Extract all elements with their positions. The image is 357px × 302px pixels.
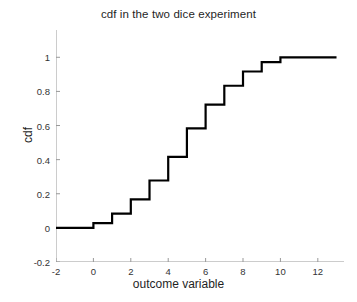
y-tick-label: 0.8 bbox=[12, 86, 50, 97]
y-tick-label: -0.2 bbox=[12, 257, 50, 268]
y-tick-label: 0.2 bbox=[12, 188, 50, 199]
y-tick-label: 1 bbox=[12, 52, 50, 63]
tick-marks bbox=[56, 57, 318, 262]
axis-lines bbox=[56, 30, 344, 262]
x-axis-title: outcome variable bbox=[0, 277, 357, 291]
y-axis-title: cdf bbox=[21, 105, 35, 165]
x-tick-label: 10 bbox=[275, 266, 286, 277]
x-tick-label: 6 bbox=[203, 266, 208, 277]
x-tick-label: 4 bbox=[166, 266, 171, 277]
cdf-step-line bbox=[56, 57, 337, 228]
chart-canvas bbox=[56, 30, 344, 262]
x-tick-label: 8 bbox=[240, 266, 245, 277]
x-tick-label: -2 bbox=[52, 266, 60, 277]
chart-figure: cdf in the two dice experiment -0.200.20… bbox=[0, 0, 357, 302]
plot-area bbox=[56, 30, 344, 262]
chart-title: cdf in the two dice experiment bbox=[0, 8, 357, 20]
x-tick-label: 0 bbox=[91, 266, 96, 277]
y-tick-label: 0 bbox=[12, 222, 50, 233]
x-tick-label: 2 bbox=[128, 266, 133, 277]
x-tick-label: 12 bbox=[313, 266, 324, 277]
